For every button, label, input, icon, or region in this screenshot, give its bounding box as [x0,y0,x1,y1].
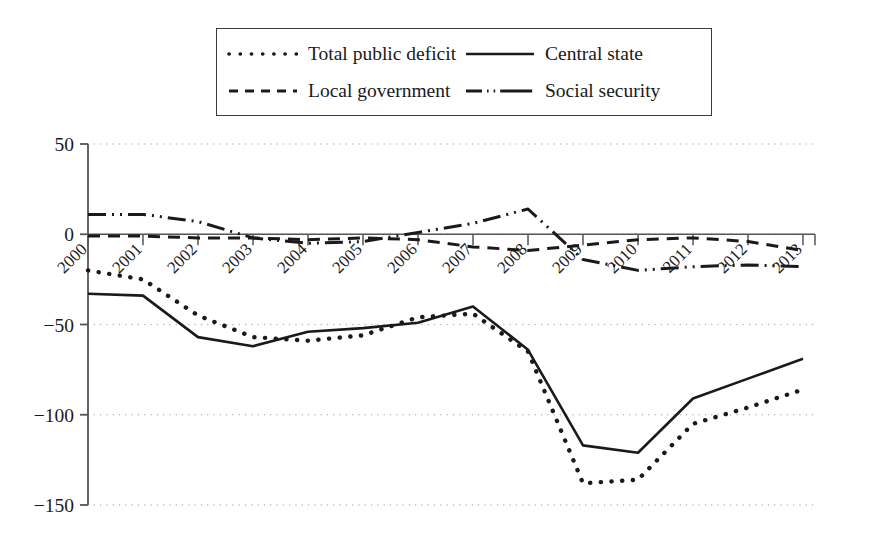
series-line-central-state [88,294,803,453]
x-tick-label: 2012 [713,240,750,277]
x-tick-label: 2004 [273,239,311,277]
x-tick-label: 2005 [328,240,365,277]
x-tick-label: 2011 [659,240,696,277]
y-tick-label: −50 [44,315,75,336]
plot-area: 500−50−100−150 2000200120022003200420052… [0,0,870,546]
x-tick-label: 2001 [108,240,145,277]
gridlines [88,144,815,505]
y-tick-label: −150 [34,495,74,516]
series-line-total-public-deficit [88,270,803,483]
x-tick-label: 2010 [603,240,640,277]
x-tick-label: 2008 [493,240,530,277]
deficit-line-chart: Total public deficit Central state Local… [0,0,870,546]
y-tick-marks [80,144,88,505]
x-tick-label: 2000 [53,240,90,277]
x-tick-label: 2003 [218,240,255,277]
y-tick-label: −100 [34,405,74,426]
x-tick-label: 2006 [383,240,420,277]
y-tick-label: 50 [55,134,75,155]
y-axis-tick-labels: 500−50−100−150 [34,134,74,516]
x-tick-label: 2002 [163,240,200,277]
y-tick-label: 0 [64,224,74,245]
